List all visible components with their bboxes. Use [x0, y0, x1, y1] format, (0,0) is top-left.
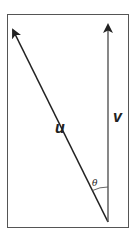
vector-v-label: v [113, 108, 123, 125]
angle-theta-label: θ [92, 178, 98, 188]
vector-u-label: u [55, 119, 65, 136]
vector-diagram: u v θ [0, 0, 134, 236]
diagram-border [8, 15, 129, 228]
